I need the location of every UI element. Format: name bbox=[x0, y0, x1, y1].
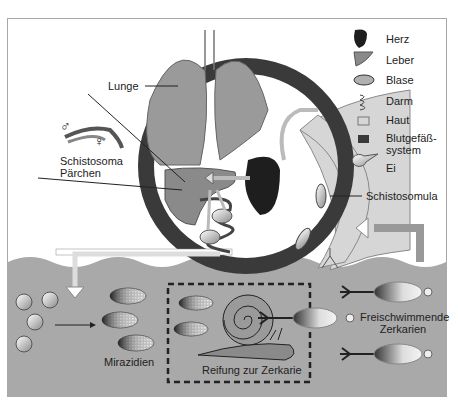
legend-leber: Leber bbox=[386, 54, 414, 66]
label-reifung: Reifung zur Zerkarie bbox=[202, 364, 302, 376]
legend-blutgefaess: Blutgefäß- bbox=[386, 132, 437, 144]
legend-ei: Ei bbox=[386, 162, 396, 174]
schistosomula bbox=[316, 184, 326, 208]
bladder-icon bbox=[354, 75, 374, 85]
skin-swatch-icon bbox=[358, 117, 369, 125]
legend-blase: Blase bbox=[386, 74, 414, 86]
label-freischwimmende: Freischwimmende bbox=[360, 311, 446, 323]
legend-haut: Haut bbox=[386, 114, 409, 126]
male-symbol: ♂ bbox=[60, 120, 71, 132]
heart-icon bbox=[354, 30, 367, 49]
legend-herz: Herz bbox=[386, 33, 409, 45]
legend-darm: Darm bbox=[386, 95, 413, 107]
label-zerkarien: Zerkarien bbox=[360, 323, 446, 335]
label-schistosoma: Schistosoma bbox=[60, 155, 123, 167]
lung-left bbox=[147, 60, 207, 165]
legend-blutgefaess-2: system bbox=[386, 144, 421, 156]
label-lunge: Lunge bbox=[108, 80, 139, 92]
heart bbox=[245, 157, 280, 215]
label-mirazidien: Mirazidien bbox=[104, 356, 154, 368]
label-paerchen: Pärchen bbox=[60, 167, 101, 179]
intestine bbox=[200, 199, 233, 252]
female-symbol: ♀ bbox=[94, 135, 105, 147]
label-schistosomula: Schistosomula bbox=[366, 190, 438, 202]
liver-icon bbox=[354, 52, 373, 66]
blood-vessel-swatch-icon bbox=[358, 135, 369, 143]
lung-right bbox=[215, 61, 268, 160]
bladder bbox=[212, 209, 232, 223]
